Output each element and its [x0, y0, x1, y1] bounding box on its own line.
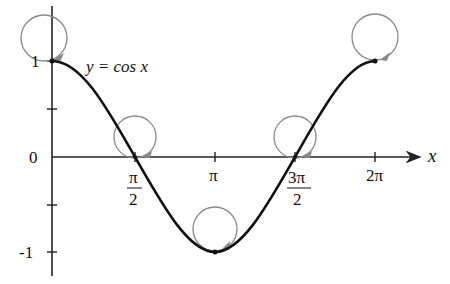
x-tick-pi: π — [209, 166, 218, 185]
circle-at-0 — [21, 15, 67, 61]
cosine-diagram: y = cos x x 1 0 -1 π 2 π 3π 2 2π — [0, 0, 450, 284]
circle-at-pi — [193, 207, 237, 251]
y-tick-label-1: 1 — [31, 52, 40, 71]
x-tick-pi-over-2-num: π — [129, 168, 138, 187]
y-tick-label-neg1: -1 — [19, 243, 33, 262]
circle-at-2pi — [352, 14, 398, 60]
x-tick-3pi-over-2-den: 2 — [293, 190, 302, 209]
x-tick-2pi: 2π — [366, 166, 384, 185]
circle-arrowheads — [53, 52, 390, 251]
x-axis-label: x — [427, 145, 437, 166]
circle-at-pi-over-2 — [114, 116, 156, 158]
circle-at-3pi-over-2 — [274, 116, 316, 158]
x-tick-3pi-over-2-num: 3π — [288, 168, 306, 187]
y-tick-label-0: 0 — [29, 148, 38, 167]
x-tick-pi-over-2-den: 2 — [129, 190, 138, 209]
curve-label: y = cos x — [84, 57, 148, 76]
curvature-circles — [21, 14, 398, 251]
